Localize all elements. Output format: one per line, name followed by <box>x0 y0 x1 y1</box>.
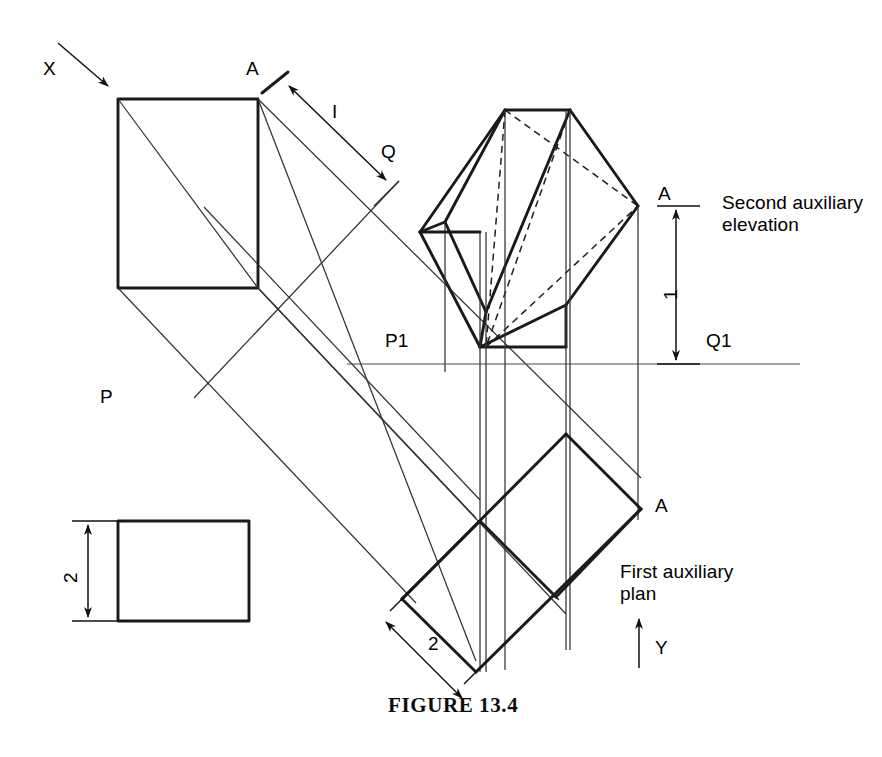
label-second-auxiliary-elevation-line1: Second auxiliary <box>722 192 863 214</box>
technical-drawing-svg <box>0 0 882 757</box>
x-direction-arrow <box>58 43 108 86</box>
label-dimension-one-top: I <box>332 101 337 123</box>
label-first-auxiliary-plan-line1: First auxiliary <box>620 561 733 583</box>
label-a-elevation: A <box>658 183 671 205</box>
figure-caption: FIGURE 13.4 <box>388 693 518 718</box>
label-dimension-two-left: 2 <box>60 572 82 583</box>
dimension-line-one-right <box>657 206 700 364</box>
figure-canvas: X A I Q P P1 Q1 A 1 Second auxiliary ele… <box>0 0 882 757</box>
label-q1: Q1 <box>706 330 732 352</box>
label-a-plan: A <box>655 495 668 517</box>
dimension-line-two-left <box>72 521 122 621</box>
label-first-auxiliary-plan-line2: plan <box>620 583 656 605</box>
label-p1: P1 <box>385 330 408 352</box>
end-view-rectangle <box>118 521 249 621</box>
label-a-top: A <box>246 58 259 80</box>
label-dimension-two-plan: 2 <box>428 633 439 655</box>
second-auxiliary-elevation-solid <box>420 110 638 672</box>
front-view-rectangle <box>118 99 258 288</box>
label-y-direction: Y <box>655 637 668 659</box>
label-q-top: Q <box>381 141 396 163</box>
label-p-top: P <box>100 386 113 408</box>
label-dimension-one-right: 1 <box>660 289 682 300</box>
projector-lines-front-to-aux-plan <box>118 99 641 661</box>
label-second-auxiliary-elevation-line2: elevation <box>722 214 799 236</box>
ground-line-PQ <box>194 181 399 398</box>
label-x-direction: X <box>43 58 56 80</box>
